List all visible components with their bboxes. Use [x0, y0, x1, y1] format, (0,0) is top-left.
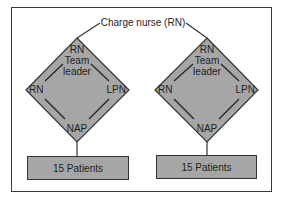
team2-top-rn: RN [192, 45, 222, 55]
team2-bottom-nap: NAP [192, 124, 222, 134]
team2-left-rn: RN [158, 85, 178, 95]
team2-team-label: Team [187, 56, 227, 66]
team2-patients-box: 15 Patients [156, 155, 257, 179]
connector-right [186, 23, 207, 38]
team1-right-lpn: LPN [100, 85, 126, 95]
team1-left-rn: RN [29, 85, 49, 95]
team1-patients-box: 15 Patients [27, 156, 129, 180]
team2-right-lpn: LPN [229, 85, 255, 95]
team1-team-label: Team [57, 56, 97, 66]
team1-bottom-nap: NAP [62, 124, 92, 134]
team2-leader-label: leader [187, 67, 227, 77]
team1-leader-label: leader [57, 67, 97, 77]
connector-left [77, 23, 100, 38]
charge-nurse-label: Charge nurse (RN) [100, 18, 186, 28]
team1-top-rn: RN [62, 45, 92, 55]
